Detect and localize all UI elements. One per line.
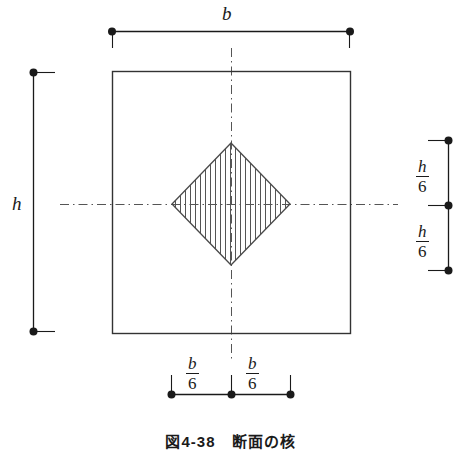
kern-rhombus-fill (172, 143, 290, 265)
dimension-b6-dot-right (287, 391, 295, 399)
dimension-b-dot-left (108, 28, 116, 36)
b-over-6-right-denominator: 6 (246, 375, 259, 392)
dimension-h-dot-top (30, 69, 38, 77)
dimension-h6-dot-middle (445, 202, 453, 210)
dimension-h-dot-bottom (30, 328, 38, 336)
label-b: b (222, 4, 232, 23)
dimension-line-h6 (428, 137, 453, 275)
label-b-over-6-left: b 6 (186, 355, 199, 392)
h-over-6-bottom-numerator: h (416, 223, 429, 240)
label-b-over-6-right: b 6 (246, 355, 259, 392)
label-h-over-6-top: h 6 (416, 158, 429, 195)
b-over-6-left-denominator: 6 (186, 375, 199, 392)
h-over-6-top-numerator: h (416, 158, 429, 175)
h-over-6-bottom-denominator: 6 (416, 243, 429, 260)
dimension-b6-dot-middle (228, 391, 236, 399)
h-over-6-top-denominator: 6 (416, 178, 429, 195)
dimension-line-h (30, 69, 56, 336)
dimension-h6-dot-top (445, 137, 453, 145)
dimension-b6-dot-left (168, 391, 176, 399)
figure-caption: 図4-38 断面の核 (0, 430, 461, 451)
b-over-6-left-numerator: b (186, 355, 199, 372)
b-over-6-right-numerator: b (246, 355, 259, 372)
dimension-h6-dot-bottom (445, 267, 453, 275)
label-h: h (12, 194, 22, 213)
kern-region (172, 143, 290, 265)
dimension-line-b (108, 28, 354, 49)
dimension-b-dot-right (346, 28, 354, 36)
label-h-over-6-bottom: h 6 (416, 223, 429, 260)
